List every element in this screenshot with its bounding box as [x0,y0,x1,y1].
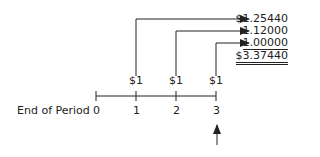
period-label-0: 0 [93,105,100,117]
future-value-total: $3.37440 [236,50,289,65]
period-label-1: 1 [133,105,140,117]
period-label-3: 3 [213,105,220,117]
compound-arrow-period-1 [136,19,249,76]
payment-label-2: $1 [169,75,183,87]
axis-label: End of Period [17,105,90,117]
period-label-2: 2 [173,105,180,117]
payment-label-1: $1 [129,75,143,87]
payment-label-3: $1 [209,75,223,87]
